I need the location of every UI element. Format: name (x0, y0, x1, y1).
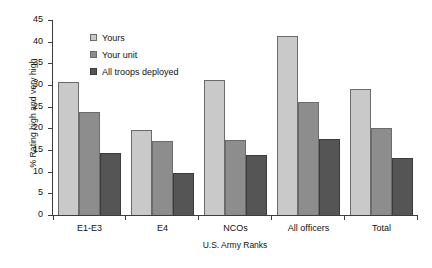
bar-set (199, 20, 272, 215)
bar (371, 128, 392, 215)
bar-set (272, 20, 345, 215)
x-tick-mark (53, 216, 54, 220)
bar (79, 112, 100, 215)
y-tick-label: 0 (38, 209, 43, 219)
y-tick: 20 (6, 128, 52, 129)
y-tick-mark (48, 63, 52, 64)
legend-label: Yours (102, 33, 125, 43)
y-tick-label: 20 (33, 122, 43, 132)
legend-label: Your unit (102, 50, 137, 60)
bar-group: NCOs (199, 20, 272, 216)
legend-swatch-icon (90, 34, 97, 41)
bar (225, 140, 246, 215)
y-tick-mark (48, 20, 52, 21)
chart-legend: YoursYour unitAll troops deployed (90, 30, 179, 81)
y-tick-label: 10 (33, 166, 43, 176)
y-tick-label: 25 (33, 101, 43, 111)
legend-item: Yours (90, 30, 179, 45)
legend-item: All troops deployed (90, 64, 179, 79)
y-tick-mark (48, 128, 52, 129)
x-tick-label: All officers (272, 223, 345, 233)
x-axis-title: U.S. Army Ranks (52, 240, 418, 250)
bar (298, 102, 319, 215)
legend-item: Your unit (90, 47, 179, 62)
bar (350, 89, 371, 215)
y-tick-mark (48, 85, 52, 86)
y-tick-mark (48, 42, 52, 43)
bar-set (345, 20, 418, 215)
x-tick-label: NCOs (199, 223, 272, 233)
y-tick: 10 (6, 172, 52, 173)
y-tick-mark (48, 215, 52, 216)
x-tick-mark (271, 216, 272, 220)
y-tick-mark (48, 150, 52, 151)
bar (152, 141, 173, 215)
y-tick-label: 5 (38, 187, 43, 197)
x-tick-mark (125, 216, 126, 220)
y-tick-label: 15 (33, 144, 43, 154)
y-tick: 30 (6, 85, 52, 86)
bar (277, 36, 298, 215)
x-tick-mark (344, 216, 345, 220)
legend-swatch-icon (90, 68, 97, 75)
x-tick-label: E4 (126, 223, 199, 233)
y-axis-title: % Rating high and very high (28, 23, 38, 203)
bar (58, 82, 79, 215)
y-tick-label: 45 (33, 14, 43, 24)
bar (246, 155, 267, 215)
bar (319, 139, 340, 215)
y-tick: 0 (6, 215, 52, 216)
y-tick: 15 (6, 150, 52, 151)
y-tick-label: 35 (33, 57, 43, 67)
bar (173, 173, 194, 215)
y-tick-mark (48, 107, 52, 108)
y-tick-mark (48, 193, 52, 194)
x-tick-label: Total (345, 223, 418, 233)
bar-group: All officers (272, 20, 345, 216)
y-tick-label: 30 (33, 79, 43, 89)
bar (204, 80, 225, 215)
y-tick: 25 (6, 107, 52, 108)
bar (100, 153, 121, 215)
x-tick-label: E1-E3 (53, 223, 126, 233)
x-tick-mark (198, 216, 199, 220)
y-tick: 35 (6, 63, 52, 64)
bar (392, 158, 413, 215)
y-tick-label: 40 (33, 36, 43, 46)
bar-group: Total (345, 20, 418, 216)
bar (131, 130, 152, 215)
x-tick-mark (417, 216, 418, 220)
y-tick: 45 (6, 20, 52, 21)
bar-chart: % Rating high and very high 051015202530… (0, 0, 432, 268)
y-tick-mark (48, 172, 52, 173)
y-tick: 40 (6, 42, 52, 43)
legend-swatch-icon (90, 51, 97, 58)
legend-label: All troops deployed (102, 67, 179, 77)
y-tick: 5 (6, 193, 52, 194)
